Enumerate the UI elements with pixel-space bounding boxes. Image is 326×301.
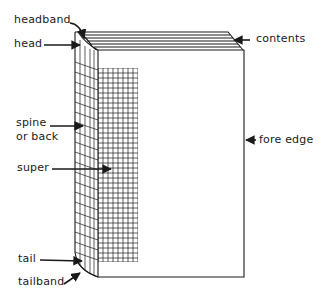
- label-or-back: or back: [16, 131, 58, 143]
- label-head: head: [14, 38, 42, 50]
- label-headband: headband: [14, 14, 71, 26]
- label-tailband: tailband: [18, 276, 64, 288]
- label-tail: tail: [18, 253, 36, 265]
- book-diagram: [0, 0, 326, 301]
- label-contents: contents: [256, 33, 305, 45]
- book-body: [75, 32, 244, 277]
- arrow-tailband: [64, 273, 80, 284]
- label-fore-edge: fore edge: [259, 134, 313, 146]
- label-spine: spine: [16, 117, 47, 129]
- arrow-headband: [70, 23, 84, 38]
- contents-lines: [80, 32, 243, 50]
- label-super: super: [17, 162, 49, 174]
- spine-mesh: [75, 40, 98, 276]
- arrow-tail: [40, 260, 82, 261]
